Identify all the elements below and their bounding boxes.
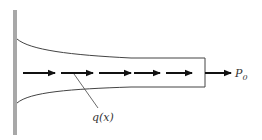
fixed-wall [13,10,17,135]
p0-label: P0 [234,67,248,82]
diagram-canvas: q(x) P0 [0,0,262,140]
bar-outline [17,39,205,103]
q-leader-line [74,74,98,108]
q-label: q(x) [92,111,114,124]
